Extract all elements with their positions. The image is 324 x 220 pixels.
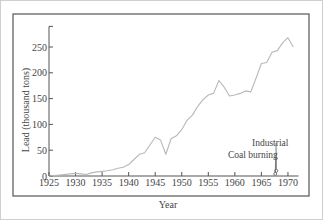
x-tick-label: 1940 (119, 177, 139, 188)
lead-chart: 0501001502002501925193019351940194519501… (0, 0, 324, 220)
x-tick-label: 1945 (145, 177, 165, 188)
x-tick-label: 1930 (66, 177, 86, 188)
x-tick-label: 1965 (251, 177, 271, 188)
x-tick-label: 1950 (172, 177, 192, 188)
y-tick-label: 100 (32, 119, 47, 130)
ticks: 0501001502002501925193019351940194519501… (32, 42, 298, 189)
y-tick-label: 200 (32, 67, 47, 78)
annotation-industrial: Industrial (252, 138, 289, 148)
x-tick-label: 1935 (92, 177, 112, 188)
annotation-marker (274, 172, 277, 175)
y-tick-label: 150 (32, 93, 47, 104)
y-axis-label: Lead (thousand tons) (20, 68, 32, 152)
x-tick-label: 1925 (39, 177, 59, 188)
annotations: IndustrialCoal burning (228, 138, 289, 175)
x-axis-label: Year (159, 199, 178, 210)
annotation-coal-burning: Coal burning (228, 150, 278, 160)
y-tick-label: 250 (32, 42, 47, 53)
x-tick-label: 1970 (278, 177, 298, 188)
figure-frame (13, 14, 309, 196)
y-tick-label: 50 (37, 145, 47, 156)
x-tick-label: 1960 (225, 177, 245, 188)
x-tick-label: 1955 (198, 177, 218, 188)
